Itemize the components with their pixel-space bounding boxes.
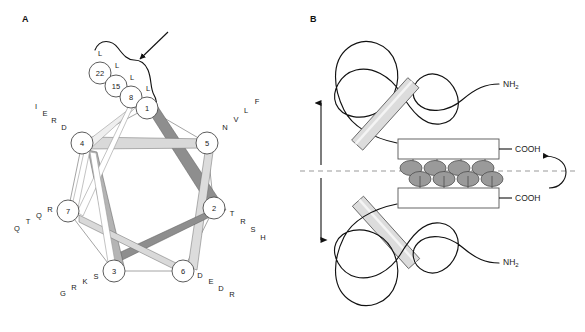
nh2-label-bottom: NH2 [503,257,519,268]
rotation-arrow-icon [546,156,566,188]
nh2-label-top: NH2 [503,79,519,90]
cooh-label-top: COOH [515,144,541,154]
leucine-residues [400,161,503,187]
cooh-label-bottom: COOH [515,193,541,203]
chain-top [335,41,499,143]
figure-root: A B [0,0,585,332]
coiled-coil-box-top [398,139,499,159]
coiled-coil-box-bottom [398,188,499,208]
panel-b-diagram: NH2 COOH COOH NH2 [0,0,585,332]
chain-bottom [335,204,499,306]
